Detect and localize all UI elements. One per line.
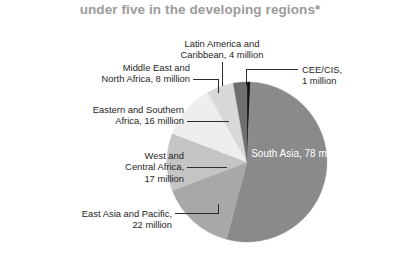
callout-eastern-southern-africa: Eastern and Southern Africa, 16 million bbox=[28, 104, 184, 127]
callout-latin-america-caribbean: Latin America and Caribbean, 4 million bbox=[152, 38, 292, 61]
callout-cee-cis: CEE/CIS, 1 million bbox=[302, 64, 398, 87]
callout-east-asia-line2: 22 million bbox=[24, 219, 172, 230]
callout-east-asia-line1: East Asia and Pacific, bbox=[24, 208, 172, 219]
callout-eastern-southern-line2: Africa, 16 million bbox=[28, 115, 184, 126]
leader-line-latin-america bbox=[222, 62, 223, 86]
callout-middle-east-line2: North Africa, 8 million bbox=[40, 73, 190, 84]
callout-latin-america-line1: Latin America and bbox=[152, 38, 292, 49]
leader-line-cee-cis-vertical bbox=[246, 69, 247, 86]
callout-west-central-line1: West and bbox=[50, 150, 184, 161]
leader-line-west-central-africa bbox=[187, 167, 227, 168]
callout-cee-cis-line2: 1 million bbox=[302, 75, 398, 86]
callout-east-asia-pacific: East Asia and Pacific, 22 million bbox=[24, 208, 172, 231]
callout-cee-cis-line1: CEE/CIS, bbox=[302, 64, 398, 75]
leader-line-middle-east-horizontal bbox=[193, 79, 219, 80]
callout-west-central-line2: Central Africa, bbox=[50, 161, 184, 172]
callout-west-central-line3: 17 million bbox=[50, 173, 184, 184]
leader-line-east-asia-horizontal bbox=[175, 213, 219, 214]
leader-line-east-asia-vertical bbox=[218, 204, 219, 214]
leader-line-cee-cis-horizontal bbox=[246, 69, 298, 70]
slice-label-south-asia: South Asia, 78 million bbox=[244, 148, 354, 160]
pie-slices bbox=[167, 82, 327, 242]
callout-middle-east-line1: Middle East and bbox=[40, 62, 190, 73]
slice-label-south-asia-line2: 78 million bbox=[305, 148, 347, 159]
callout-eastern-southern-line1: Eastern and Southern bbox=[28, 104, 184, 115]
callout-latin-america-line2: Caribbean, 4 million bbox=[152, 49, 292, 60]
callout-middle-east-north-africa: Middle East and North Africa, 8 million bbox=[40, 62, 190, 85]
slice-label-south-asia-line1: South Asia, bbox=[251, 148, 302, 159]
chart-figure: under five in the developing regions* So… bbox=[0, 0, 400, 260]
leader-line-eastern-southern-africa bbox=[187, 121, 229, 122]
callout-west-central-africa: West and Central Africa, 17 million bbox=[50, 150, 184, 184]
leader-line-middle-east-vertical bbox=[218, 79, 219, 93]
